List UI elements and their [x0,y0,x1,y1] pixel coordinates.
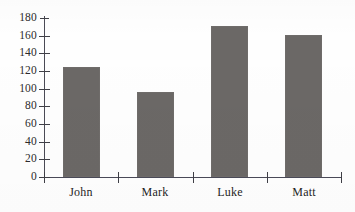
y-axis-line [44,16,45,178]
x-axis-category-label: John [44,186,118,199]
y-axis-tick-label: 60 [3,118,37,130]
y-axis-tick-label: 40 [3,136,37,148]
y-axis-tick-label: 140 [3,47,37,59]
x-axis-category-label: Mark [118,186,192,199]
y-axis-tick-label: 80 [3,100,37,112]
bar [285,35,322,177]
y-axis-tick-mark [39,36,50,37]
plot-area: 020406080100120140160180 JohnMarkLukeMat… [0,0,355,212]
y-axis-tick-mark [39,89,50,90]
bar [211,26,248,177]
y-axis-tick-label: 120 [3,65,37,77]
y-axis-tick-label: 100 [3,83,37,95]
y-axis-tick-mark [40,18,49,19]
x-axis-tick-mark [118,172,119,183]
y-axis-tick-mark [39,124,50,125]
x-axis-tick-mark [44,172,45,183]
x-axis-tick-mark [341,172,342,183]
bar [137,92,174,177]
y-axis-tick-mark [39,106,50,107]
y-axis-tick-label: 20 [3,153,37,165]
y-axis-tick-label: 180 [3,12,37,24]
y-axis-tick-mark [39,71,50,72]
x-axis-tick-mark [267,172,268,183]
x-axis-category-label: Matt [267,186,341,199]
y-axis-tick-mark [39,142,50,143]
y-axis-tick-mark [39,53,50,54]
y-axis-tick-mark [39,159,50,160]
bar [63,67,100,177]
y-axis-tick-label: 160 [3,30,37,42]
x-axis-category-label: Luke [193,186,267,199]
bar-chart-figure: 020406080100120140160180 JohnMarkLukeMat… [0,0,355,212]
x-axis-tick-mark [193,172,194,183]
y-axis-tick-label: 0 [3,171,37,183]
